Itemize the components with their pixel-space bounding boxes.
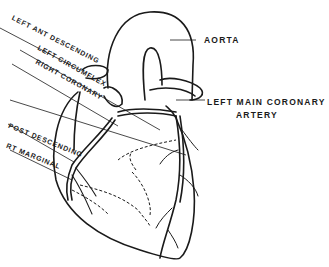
heart-outline (54, 92, 195, 259)
heart-diagram: AORTA LEFT MAIN CORONARY ARTERY LEFT ANT… (0, 0, 329, 267)
aorta-shape (107, 12, 193, 100)
label-aorta: AORTA (204, 35, 240, 45)
label-left-main-coronary-artery: ARTERY (236, 110, 278, 120)
label-left-main-coronary: LEFT MAIN CORONARY (207, 97, 326, 107)
